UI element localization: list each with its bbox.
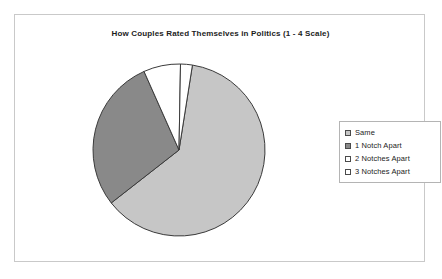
legend-item[interactable]: Same <box>345 126 436 139</box>
legend-item-label: 2 Notches Apart <box>355 154 410 163</box>
legend-item-label: 3 Notches Apart <box>355 167 410 176</box>
legend-swatch-icon <box>345 169 351 175</box>
legend-swatch-icon <box>345 130 351 136</box>
legend-item[interactable]: 2 Notches Apart <box>345 152 436 165</box>
chart-frame: How Couples Rated Themselves in Politics… <box>14 14 425 262</box>
pie-slice-group <box>93 64 265 236</box>
pie-chart <box>92 63 266 237</box>
legend-item[interactable]: 3 Notches Apart <box>345 165 436 178</box>
chart-legend: Same1 Notch Apart2 Notches Apart3 Notche… <box>339 121 441 183</box>
legend-item-label: 1 Notch Apart <box>355 141 402 150</box>
chart-title: How Couples Rated Themselves in Politics… <box>15 29 426 39</box>
screenshot-root: How Couples Rated Themselves in Politics… <box>0 0 442 279</box>
legend-item[interactable]: 1 Notch Apart <box>345 139 436 152</box>
legend-swatch-icon <box>345 143 351 149</box>
legend-swatch-icon <box>345 156 351 162</box>
legend-item-label: Same <box>355 128 375 137</box>
pie-svg <box>92 63 266 237</box>
